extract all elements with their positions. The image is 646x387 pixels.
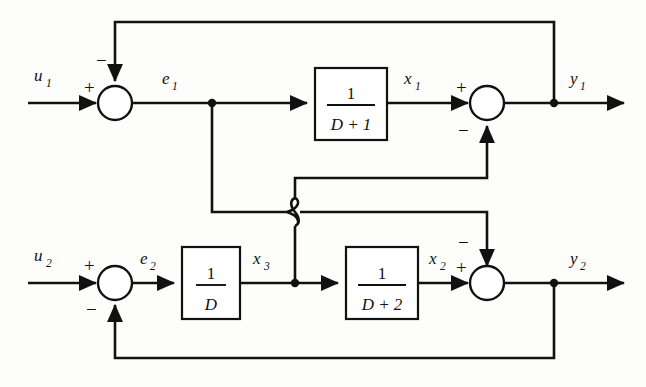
block1-numerator: 1	[347, 84, 356, 103]
label-e1-subscript: 1	[172, 80, 178, 92]
label-y1-subscript: 1	[580, 80, 586, 92]
block3-numerator: 1	[378, 264, 387, 283]
label-e2-subscript: 2	[150, 260, 156, 272]
label-u2: u	[34, 246, 43, 265]
sign-plus-sum2: +	[456, 77, 467, 98]
block2-numerator: 1	[207, 264, 216, 283]
sign-minus-sum1: −	[96, 50, 107, 71]
label-x3-subscript: 3	[263, 260, 270, 272]
label-x1-subscript: 1	[415, 80, 421, 92]
label-e2: e	[140, 249, 148, 268]
block-diagram-figure: 1 D + 1 1 D 1 D +	[0, 0, 646, 387]
label-y2: y	[568, 249, 578, 268]
summing-junction-1	[98, 86, 132, 120]
node-y1-branch	[550, 99, 558, 107]
block1-denominator: D + 1	[330, 115, 372, 134]
block3-denominator: D + 2	[361, 295, 403, 314]
sign-plus-sum3: +	[84, 255, 95, 276]
label-x3: x	[252, 249, 261, 268]
label-e1: e	[162, 69, 170, 88]
label-y1: y	[568, 69, 578, 88]
summing-junction-2	[470, 86, 504, 120]
label-u1: u	[34, 66, 43, 85]
label-u1-subscript: 1	[46, 77, 52, 89]
block2-denominator: D	[204, 295, 218, 314]
sign-plus-sum4: +	[456, 257, 467, 278]
block-diagram-canvas: 1 D + 1 1 D 1 D +	[0, 0, 646, 387]
wire-e1-cross-to-sum4	[212, 103, 287, 212]
sign-minus-sum4: −	[458, 232, 469, 253]
sign-minus-sum3: −	[86, 299, 97, 320]
sign-minus-sum2: −	[458, 120, 469, 141]
label-x2-subscript: 2	[440, 260, 446, 272]
label-y2-subscript: 2	[580, 260, 586, 272]
summing-junction-3	[98, 266, 132, 300]
label-u2-subscript: 2	[46, 257, 52, 269]
node-y2-branch	[550, 279, 558, 287]
summing-junction-4	[470, 266, 504, 300]
wire-hop-over-x3	[287, 198, 299, 226]
label-x2: x	[428, 249, 437, 268]
label-x1: x	[403, 69, 412, 88]
sign-plus-sum1: +	[84, 77, 95, 98]
